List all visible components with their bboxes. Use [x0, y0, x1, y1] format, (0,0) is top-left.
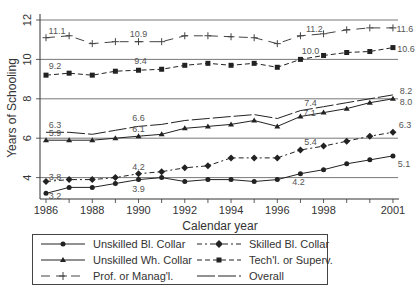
data-label: 6.3	[399, 120, 412, 130]
x-tick-label: 1988	[80, 204, 104, 216]
data-label: 3.2	[49, 191, 62, 201]
data-label: 10.9	[130, 29, 148, 39]
legend-item-overall: Overall	[197, 268, 284, 284]
legend-label: Prof. or Manag'l.	[93, 270, 173, 282]
y-tick-label: 12	[21, 14, 33, 26]
data-label: 9.4	[134, 56, 147, 66]
x-tick-label: 1996	[265, 204, 289, 216]
data-label: 5.9	[49, 128, 62, 138]
series-unskilled-bl-collar	[44, 153, 396, 195]
x-tick-label: 2001	[381, 204, 405, 216]
data-labels: 11.110.911.211.69.29.410.010.66.36.67.48…	[49, 24, 415, 202]
series-overall	[46, 95, 393, 134]
data-label: 8.0	[400, 97, 413, 107]
x-tick-label: 1994	[219, 204, 243, 216]
x-tick-label: 1992	[173, 204, 197, 216]
y-tick-label: 10	[21, 53, 33, 65]
y-tick-label: 4	[21, 175, 33, 181]
x-tick-label: 1998	[311, 204, 335, 216]
series-tech-l-or-superv-	[44, 45, 396, 78]
legend-item-unskilled-wh-collar: Unskilled Wh. Collar	[41, 252, 192, 268]
axes: 468101219861988199019921994199619982001	[21, 14, 405, 216]
square-marker-dashed-line-icon	[197, 255, 241, 265]
y-axis-label: Years of Schooling	[5, 58, 19, 158]
legend: Unskilled Bl. Collar Skilled Bl. Collar …	[32, 234, 328, 285]
legend-item-skilled-bl-collar: Skilled Bl. Collar	[197, 236, 329, 252]
legend-item-prof-or-managl: Prof. or Manag'l.	[41, 268, 173, 284]
diamond-marker-dashdot-line-icon	[197, 239, 241, 249]
data-label: 4.2	[132, 162, 145, 172]
legend-label: Skilled Bl. Collar	[249, 238, 329, 250]
legend-item-techl-or-superv: Tech'l. or Superv.	[197, 252, 333, 268]
data-label: 6.6	[132, 113, 145, 123]
data-label: 3.8	[49, 172, 62, 182]
series-unskilled-wh-collar	[43, 96, 396, 142]
data-label: 11.6	[397, 24, 414, 34]
legend-label: Overall	[249, 270, 284, 282]
series-prof-or-manag-l-	[43, 24, 397, 47]
data-label: 8.2	[400, 86, 413, 96]
y-tick-label: 8	[21, 96, 33, 102]
y-tick-label: 6	[21, 135, 33, 141]
data-label: 7.4	[304, 98, 317, 108]
legend-label: Unskilled Bl. Collar	[93, 238, 185, 250]
data-label: 11.1	[49, 26, 66, 36]
data-label: 6.1	[132, 124, 145, 134]
line-chart: 468101219861988199019921994199619982001 …	[0, 0, 419, 234]
data-label: 7.1	[303, 108, 316, 118]
circle-marker-solid-line-icon	[41, 239, 85, 249]
data-label: 5.1	[398, 159, 411, 169]
x-axis-label: Calendar year	[182, 219, 257, 233]
data-label: 5.4	[304, 137, 317, 147]
data-label: 9.2	[49, 61, 62, 71]
legend-label: Tech'l. or Superv.	[249, 254, 333, 266]
data-label: 4.2	[292, 177, 305, 187]
x-tick-label: 1990	[126, 204, 150, 216]
plus-marker-dashed-line-icon	[41, 271, 85, 281]
data-label: 11.2	[306, 24, 323, 34]
legend-item-unskilled-bl-collar: Unskilled Bl. Collar	[41, 236, 185, 252]
series-lines	[43, 24, 397, 195]
series-skilled-bl-collar	[43, 129, 397, 185]
triangle-marker-solid-line-icon	[41, 255, 85, 265]
longdash-line-icon	[197, 271, 241, 281]
data-label: 3.9	[132, 184, 145, 194]
data-label: 10.6	[397, 44, 415, 54]
x-tick-label: 1986	[34, 204, 58, 216]
data-label: 10.0	[302, 46, 320, 56]
legend-label: Unskilled Wh. Collar	[93, 254, 192, 266]
